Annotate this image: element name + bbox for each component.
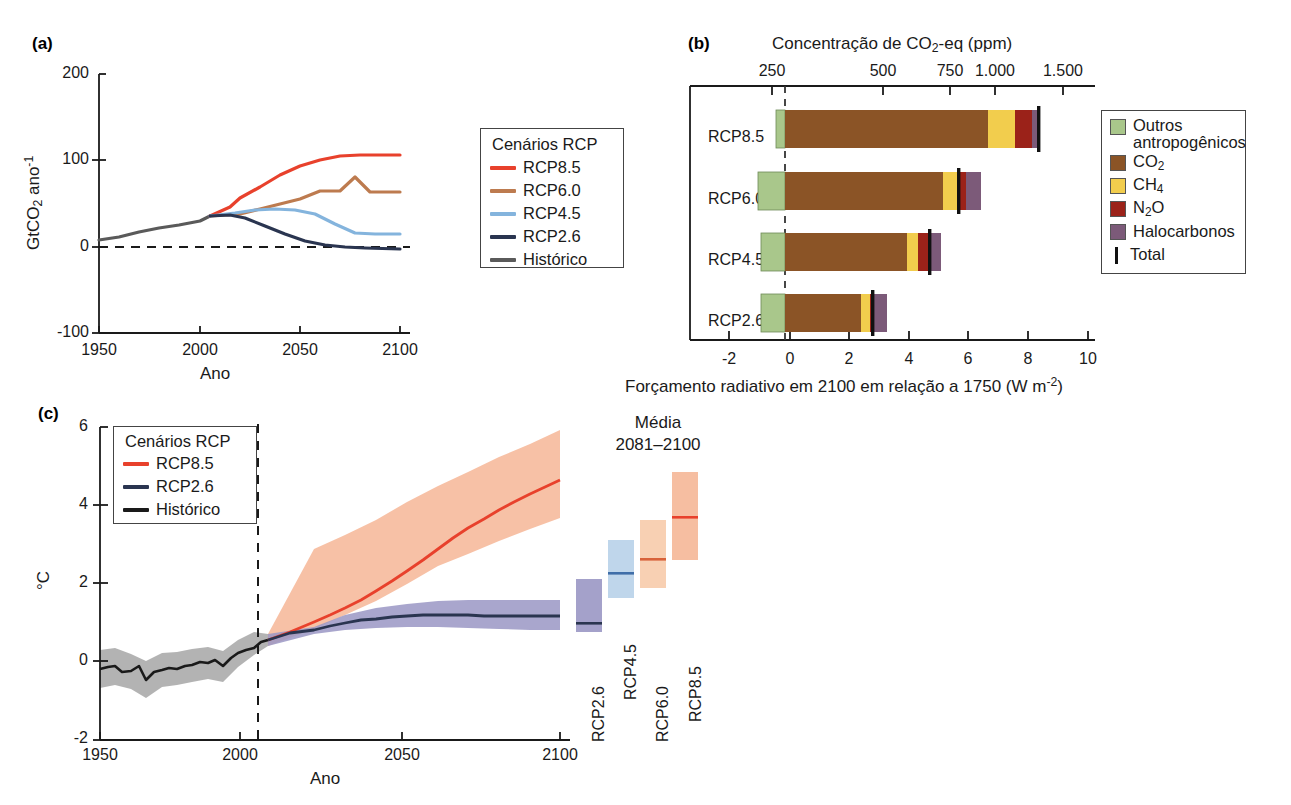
total-bar-icon bbox=[1115, 247, 1118, 264]
legend-label: RCP2.6 bbox=[156, 478, 214, 495]
historico-line-icon bbox=[490, 258, 516, 262]
legend-item-halocarbonos[interactable]: Halocarbonos bbox=[1110, 221, 1237, 244]
rcp26-line-icon bbox=[490, 235, 516, 239]
legend-item-rcp26[interactable]: RCP2.6 bbox=[123, 475, 247, 498]
panel-a: (a) GtCO2 ano-1 200 100 0 -100 1950 2000… bbox=[0, 0, 640, 380]
legend-item-ch4[interactable]: CH4 bbox=[1110, 175, 1237, 198]
panel-c-legend-title: Cenários RCP bbox=[125, 432, 247, 451]
legend-item-n2o[interactable]: N2O bbox=[1110, 198, 1237, 221]
legend-label: Total bbox=[1130, 246, 1165, 263]
rcp85-line-icon bbox=[123, 462, 149, 466]
bar-rcp60 bbox=[758, 168, 981, 214]
legend-item-rcp85[interactable]: RCP8.5 bbox=[490, 156, 614, 179]
halocarbonos-swatch-icon bbox=[1110, 224, 1126, 240]
legend-label: Histórico bbox=[523, 251, 587, 268]
rcp85-line-icon bbox=[490, 166, 516, 170]
legend-label: RCP8.5 bbox=[523, 159, 581, 176]
legend-item-total[interactable]: Total bbox=[1110, 244, 1237, 267]
rcp60-line-icon bbox=[490, 189, 516, 193]
panel-a-legend-title: Cenários RCP bbox=[492, 135, 614, 154]
panel-b-legend: Outros antropogênicos CO2 CH4 N2O Haloca… bbox=[1101, 110, 1246, 274]
legend-label: Outros antropogênicos bbox=[1133, 117, 1237, 152]
legend-label: N2O bbox=[1133, 199, 1164, 218]
legend-item-co2[interactable]: CO2 bbox=[1110, 152, 1237, 175]
ch4-swatch-icon bbox=[1110, 178, 1126, 194]
legend-item-rcp45[interactable]: RCP4.5 bbox=[490, 202, 614, 225]
bar-rcp45 bbox=[761, 229, 941, 275]
bar-rcp85 bbox=[776, 106, 1040, 152]
rcp26-line-icon bbox=[123, 485, 149, 489]
legend-item-historico[interactable]: Histórico bbox=[490, 248, 614, 271]
legend-label: RCP6.0 bbox=[523, 182, 581, 199]
co2-swatch-icon bbox=[1110, 155, 1126, 171]
legend-label: RCP2.6 bbox=[523, 228, 581, 245]
legend-label: Histórico bbox=[156, 501, 220, 518]
legend-label: RCP4.5 bbox=[523, 205, 581, 222]
n2o-swatch-icon bbox=[1110, 201, 1126, 217]
side-bar-rcp26 bbox=[576, 579, 602, 632]
side-bar-rcp45 bbox=[608, 540, 634, 598]
side-bar-rcp85 bbox=[672, 472, 698, 560]
legend-label: Halocarbonos bbox=[1133, 223, 1235, 240]
panel-c-legend: Cenários RCP RCP8.5 RCP2.6 Histórico bbox=[113, 426, 257, 524]
panel-c-plot bbox=[0, 390, 720, 805]
historico-line-icon bbox=[123, 508, 149, 512]
legend-item-rcp60[interactable]: RCP6.0 bbox=[490, 179, 614, 202]
legend-label: CH4 bbox=[1133, 176, 1163, 195]
outros-swatch-icon bbox=[1110, 119, 1126, 135]
legend-item-historico[interactable]: Histórico bbox=[123, 498, 247, 521]
legend-label: CO2 bbox=[1133, 153, 1164, 172]
panel-c: (c) °C 6 4 2 0 -2 1950 2000 2050 2100 An… bbox=[0, 390, 720, 805]
rcp45-line-icon bbox=[490, 212, 516, 216]
panel-b: (b) Concentração de CO2-eq (ppm) 250 500… bbox=[640, 0, 1291, 390]
legend-item-outros[interactable]: Outros antropogênicos bbox=[1110, 117, 1237, 152]
legend-label: RCP8.5 bbox=[156, 455, 214, 472]
legend-item-rcp26[interactable]: RCP2.6 bbox=[490, 225, 614, 248]
legend-item-rcp85[interactable]: RCP8.5 bbox=[123, 452, 247, 475]
panel-a-legend: Cenários RCP RCP8.5 RCP6.0 RCP4.5 RCP2.6… bbox=[480, 128, 624, 268]
bar-rcp26 bbox=[761, 290, 887, 336]
side-bar-rcp60 bbox=[640, 520, 666, 588]
